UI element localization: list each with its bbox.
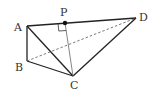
tetrahedron-diagram: A B C D P [0,0,158,93]
label-A: A [13,21,23,34]
label-D: D [139,11,148,24]
edge-CD [73,18,136,76]
label-B: B [15,61,23,74]
label-P: P [60,6,68,19]
label-C: C [70,79,78,92]
point-P-dot [63,21,67,25]
